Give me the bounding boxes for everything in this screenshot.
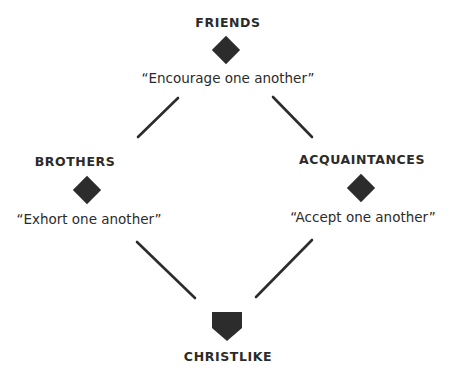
relationship-diagram: FRIENDS “Encourage one another” BROTHERS…	[0, 0, 455, 378]
edge-acquaintances-christlike	[256, 240, 312, 297]
node-label-acquaintances: ACQUAINTANCES	[299, 152, 425, 167]
edge-friends-brothers	[138, 98, 178, 137]
node-label-friends: FRIENDS	[195, 15, 260, 30]
node-label-brothers: BROTHERS	[35, 154, 116, 169]
node-label-christlike: CHRISTLIKE	[184, 349, 272, 364]
node-quote-friends: “Encourage one another”	[141, 70, 314, 86]
node-quote-acquaintances: “Accept one another”	[290, 209, 435, 225]
node-quote-brothers: “Exhort one another”	[16, 211, 161, 227]
shield-icon	[212, 312, 242, 341]
edge-brothers-christlike	[137, 242, 195, 298]
edge-friends-acquaintances	[273, 97, 312, 137]
